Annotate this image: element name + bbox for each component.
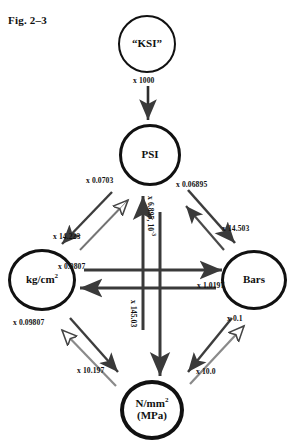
label-nmm-to-psi: x 145.03 — [129, 300, 138, 327]
node-n-per-mm2-alias: (MPa) — [137, 409, 167, 421]
arrow-bars-to-psi — [186, 206, 224, 250]
node-n-per-mm2-exponent: 2 — [165, 397, 169, 405]
label-bars-to-psi: x 14.503 — [222, 224, 249, 233]
node-kg-per-cm2-label: kg/cm2 — [26, 274, 58, 286]
figure-canvas: Fig. 2–3 “KSI” PSI kg/cm2 Bars N/mm2(MPa… — [0, 0, 298, 445]
node-kg-per-cm2[interactable]: kg/cm2 — [8, 249, 76, 311]
node-n-per-mm2-mpa[interactable]: N/mm2(MPa) — [120, 380, 184, 440]
node-ksi[interactable]: “KSI” — [118, 15, 176, 73]
label-kgcm-to-nmm: x 0.09807 — [13, 318, 44, 327]
label-bars-to-nmm: x 0.1 — [227, 314, 243, 323]
label-psi-to-kgcm: x 0.0703 — [86, 176, 113, 185]
node-n-per-mm2-text: N/mm — [136, 397, 165, 409]
figure-caption: Fig. 2–3 — [8, 14, 47, 26]
node-bars-label: Bars — [243, 274, 265, 286]
label-ksi-to-psi: x 1000 — [133, 76, 154, 85]
label-kgcm-to-psi: x 14.223 — [53, 232, 80, 241]
label-psi-to-nmm-exponent: -3 — [151, 231, 157, 236]
label-nmm-to-kgcm: x 10.197 — [77, 366, 104, 375]
label-psi-to-nmm-mantissa: x 6.895, 10 — [146, 196, 155, 231]
node-psi[interactable]: PSI — [119, 124, 181, 186]
label-bars-to-kgcm: x 1.0197 — [197, 281, 224, 290]
node-kg-per-cm2-exponent: 2 — [55, 273, 59, 281]
label-psi-to-nmm: x 6.895, 10-3 — [146, 196, 155, 236]
label-nmm-to-bars: x 10.0 — [196, 367, 216, 376]
node-n-per-mm2-label: N/mm2(MPa) — [136, 398, 169, 421]
label-psi-to-bars: x 0.06895 — [176, 180, 207, 189]
node-ksi-label: “KSI” — [132, 38, 162, 50]
node-psi-label: PSI — [141, 149, 158, 161]
node-bars[interactable]: Bars — [221, 250, 287, 310]
label-kgcm-to-bars: x 0.9807 — [58, 262, 85, 271]
node-kg-per-cm2-text: kg/cm — [26, 273, 55, 285]
arrow-kgcm-to-psi — [80, 200, 128, 250]
